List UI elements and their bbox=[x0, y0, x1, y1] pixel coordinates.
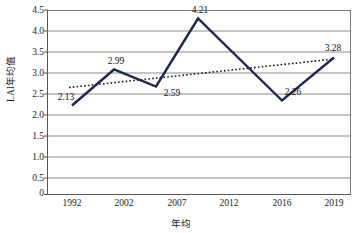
data-point-label: 2.59 bbox=[155, 88, 189, 98]
x-tick-label: 2016 bbox=[259, 198, 305, 208]
x-tick-label: 2007 bbox=[154, 198, 200, 208]
data-point-label: 4.21 bbox=[183, 5, 217, 15]
y-axis-line bbox=[44, 10, 48, 195]
data-point-label: 3.28 bbox=[316, 43, 350, 53]
data-point-label: 2.99 bbox=[99, 56, 133, 66]
data-point-label: 2.26 bbox=[276, 87, 310, 97]
data-point-label: 2.13 bbox=[49, 92, 83, 102]
x-tick-label: 2012 bbox=[206, 198, 252, 208]
plot-border bbox=[48, 11, 351, 195]
x-tick-label: 1992 bbox=[49, 198, 95, 208]
x-tick-label: 2002 bbox=[101, 198, 147, 208]
line-chart: LAI年均值 4.5 4.0 3.5 3.0 2.5 2.0 1.5 1.0 0… bbox=[0, 0, 361, 233]
x-tick-label: 2019 bbox=[311, 198, 357, 208]
x-axis-title: 年均 bbox=[0, 216, 361, 230]
